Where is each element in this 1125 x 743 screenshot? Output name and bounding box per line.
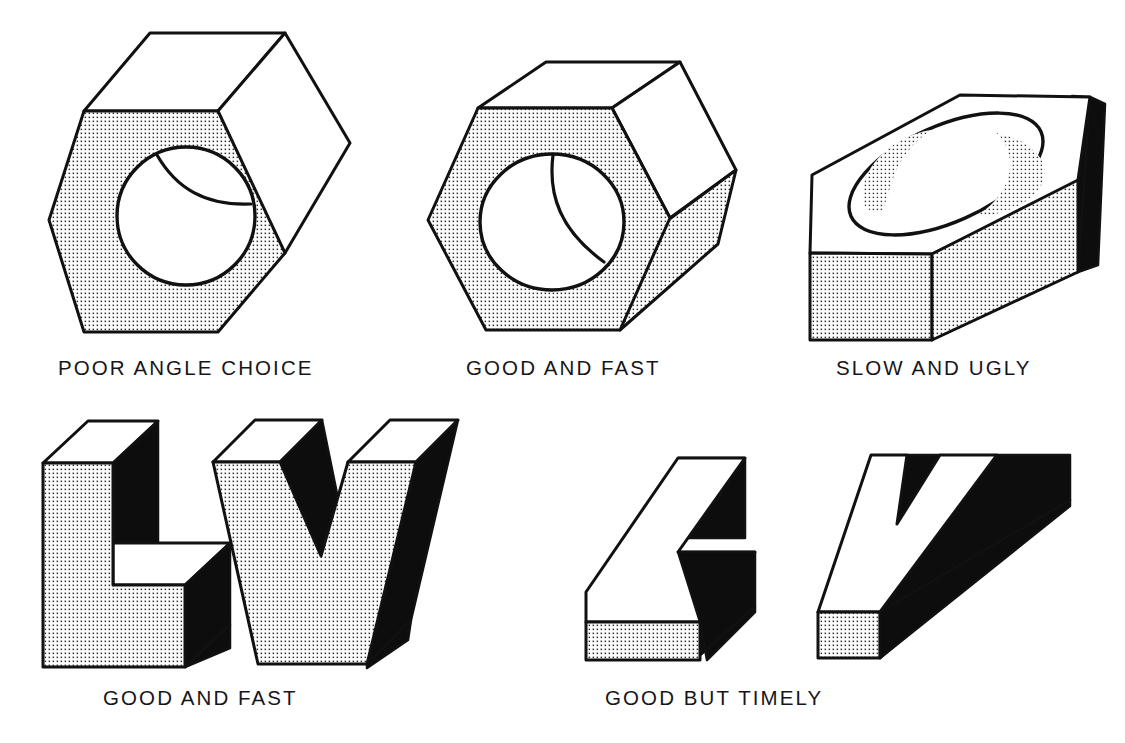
hex-nut-poor-angle [49,33,350,332]
caption-good-and-fast-letters: GOOD AND FAST [103,686,298,710]
timelyV-front-face [818,612,880,658]
caption-good-but-timely: GOOD BUT TIMELY [605,686,823,710]
figure-root: POOR ANGLE CHOICE GOOD AND FAST SLOW AND… [0,0,1125,743]
timelyL-front-face [586,622,700,660]
letter-l-good-but-timely [586,458,755,660]
caption-poor-angle-choice: POOR ANGLE CHOICE [58,356,314,380]
caption-slow-and-ugly: SLOW AND UGLY [836,356,1032,380]
hex-block-slow-and-ugly [810,88,1105,340]
letter-l-good-and-fast [43,421,230,667]
hex-nut-good-and-fast [428,62,736,330]
letter-v-good-but-timely [818,455,1070,658]
block3-front-face [810,253,932,340]
nut1-hole [117,147,255,285]
caption-good-and-fast-nut: GOOD AND FAST [466,356,661,380]
letter-v-good-and-fast [213,420,458,668]
